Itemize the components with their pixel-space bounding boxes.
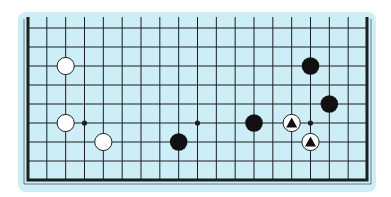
star-point [308,120,313,125]
go-board [0,0,391,197]
star-point [82,120,87,125]
black-stone [245,114,263,132]
star-point [195,120,200,125]
white-stone [57,114,74,131]
black-stone [321,95,339,113]
white-stone [57,57,74,74]
white-stone [95,133,112,150]
black-stone [170,133,188,151]
black-stone [302,57,320,75]
